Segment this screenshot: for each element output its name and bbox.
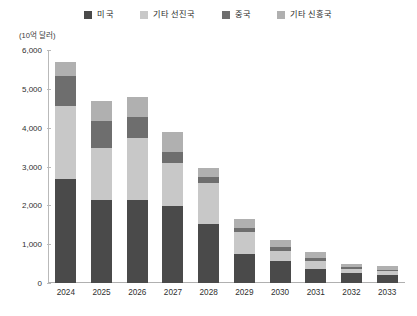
bar-column[interactable] [262,50,298,283]
bar-segment[interactable] [162,152,183,164]
legend-label: 미국 [97,11,113,19]
stacked-bar[interactable] [305,252,326,283]
bar-segment[interactable] [305,269,326,283]
stacked-bar[interactable] [162,132,183,283]
bar-segment[interactable] [270,261,291,283]
legend-label: 기타 선진국 [153,11,196,19]
bar-group [48,50,405,283]
legend-swatch-icon [140,11,148,19]
x-axis-label: 2031 [298,288,334,297]
bar-column[interactable] [119,50,155,283]
bar-column[interactable] [155,50,191,283]
stacked-bar[interactable] [270,240,291,283]
bar-segment[interactable] [198,183,219,224]
stacked-bar-chart: 미국기타 선진국중국기타 신흥국 (10억 달러) 01,0002,0003,0… [0,0,417,316]
legend-label: 기타 신흥국 [290,11,333,19]
bar-column[interactable] [334,50,370,283]
stacked-bar[interactable] [91,101,112,283]
legend-item[interactable]: 기타 선진국 [140,11,196,19]
y-axis-tick [47,283,51,284]
legend-swatch-icon [277,11,285,19]
legend-item[interactable]: 기타 신흥국 [277,11,333,19]
bar-segment[interactable] [270,240,291,247]
legend-swatch-icon [84,11,92,19]
bar-column[interactable] [84,50,120,283]
bar-segment[interactable] [127,97,148,117]
stacked-bar[interactable] [234,219,255,283]
bar-segment[interactable] [127,138,148,200]
bar-segment[interactable] [198,168,219,177]
x-axis-label: 2024 [48,288,84,297]
bar-segment[interactable] [234,254,255,284]
x-axis-label: 2029 [227,288,263,297]
bar-column[interactable] [369,50,405,283]
plot-area: 01,0002,0003,0004,0005,0006,000 [48,50,405,283]
legend-label: 중국 [235,11,251,19]
legend-swatch-icon [222,11,230,19]
bar-segment[interactable] [162,163,183,206]
bar-segment[interactable] [341,273,362,283]
bar-segment[interactable] [305,261,326,269]
legend-item[interactable]: 중국 [222,11,251,19]
bar-column[interactable] [298,50,334,283]
bar-segment[interactable] [162,132,183,151]
x-axis-label: 2028 [191,288,227,297]
bar-segment[interactable] [55,76,76,106]
x-axis-label: 2033 [369,288,405,297]
chart-legend: 미국기타 선진국중국기타 신흥국 [0,11,417,19]
stacked-bar[interactable] [198,168,219,283]
bar-segment[interactable] [91,200,112,283]
x-axis-labels: 2024202520262027202820292030203120322033 [48,288,405,297]
bar-segment[interactable] [198,224,219,283]
bar-segment[interactable] [55,106,76,179]
stacked-bar[interactable] [341,264,362,283]
bar-segment[interactable] [162,206,183,283]
stacked-bar[interactable] [377,266,398,283]
x-axis-label: 2026 [119,288,155,297]
bar-segment[interactable] [198,177,219,184]
x-axis-label: 2025 [84,288,120,297]
bar-column[interactable] [227,50,263,283]
bar-segment[interactable] [234,232,255,254]
y-axis-tick-label: 3,000 [22,162,42,171]
bar-segment[interactable] [91,148,112,200]
x-axis-label: 2027 [155,288,191,297]
bar-segment[interactable] [91,121,112,148]
bar-segment[interactable] [234,219,255,228]
stacked-bar[interactable] [55,62,76,283]
y-axis-tick-label: 0 [38,279,42,288]
y-axis-tick-label: 5,000 [22,84,42,93]
x-axis-label: 2030 [262,288,298,297]
bar-segment[interactable] [127,117,148,138]
bar-segment[interactable] [270,251,291,261]
bar-column[interactable] [191,50,227,283]
bar-segment[interactable] [55,62,76,77]
bar-segment[interactable] [127,200,148,283]
stacked-bar[interactable] [127,97,148,283]
x-axis-label: 2032 [334,288,370,297]
y-axis-tick-label: 6,000 [22,46,42,55]
legend-item[interactable]: 미국 [84,11,113,19]
y-axis-tick-label: 1,000 [22,240,42,249]
y-axis-tick-label: 2,000 [22,201,42,210]
bar-segment[interactable] [55,179,76,283]
bar-column[interactable] [48,50,84,283]
y-axis-unit-label: (10억 달러) [19,29,56,40]
bar-segment[interactable] [377,275,398,283]
bar-segment[interactable] [91,101,112,120]
y-axis-tick-label: 4,000 [22,123,42,132]
